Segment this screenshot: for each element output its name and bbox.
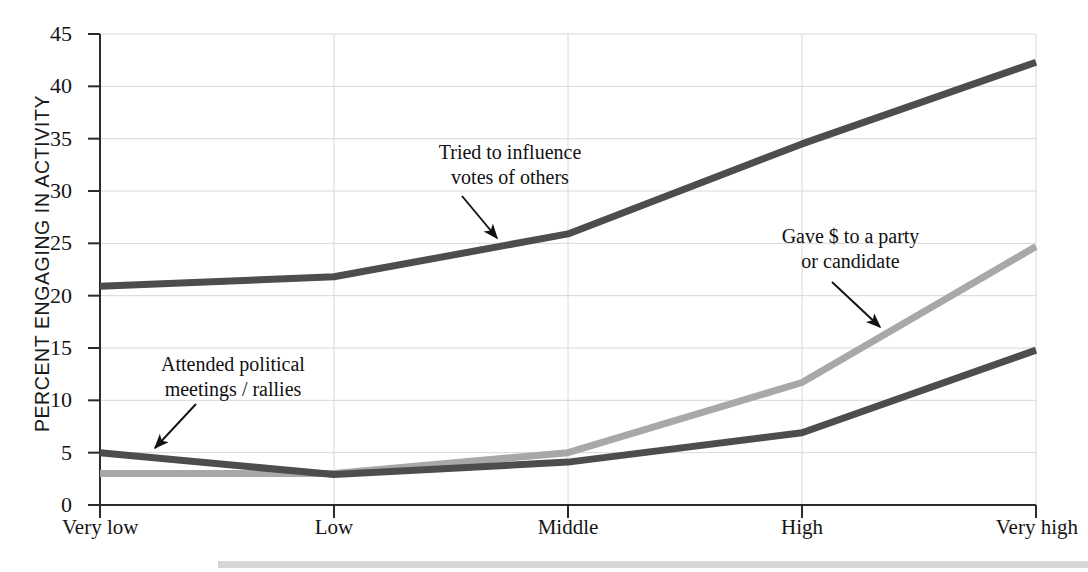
annotation-attended-meetings: Attended political meetings / rallies — [118, 352, 348, 402]
page-artifact-bar — [218, 561, 1088, 568]
x-axis-tick-labels: Very lowLowMiddleHighVery high — [0, 513, 1088, 547]
annotation-gave-line1: Gave $ to a party — [728, 224, 973, 249]
x-tick-label: Very high — [996, 517, 1078, 538]
annotation-gave-line2: or candidate — [728, 249, 973, 274]
x-tick-label: High — [781, 517, 823, 538]
x-tick-label: Very low — [62, 517, 138, 538]
annotation-influence-line1: Tried to influence — [385, 140, 635, 165]
x-tick-label: Low — [315, 517, 354, 538]
annotation-tried-to-influence: Tried to influence votes of others — [385, 140, 635, 190]
axis-ticks — [88, 34, 1036, 518]
plot-area — [0, 0, 1088, 572]
x-tick-label: Middle — [538, 517, 599, 538]
annotation-gave-money: Gave $ to a party or candidate — [728, 224, 973, 274]
annotation-influence-line2: votes of others — [385, 165, 635, 190]
annotation-attended-line2: meetings / rallies — [118, 377, 348, 402]
annotation-attended-line1: Attended political — [118, 352, 348, 377]
chart-figure: PERCENT ENGAGING IN ACTIVITY 05101520253… — [0, 0, 1088, 572]
